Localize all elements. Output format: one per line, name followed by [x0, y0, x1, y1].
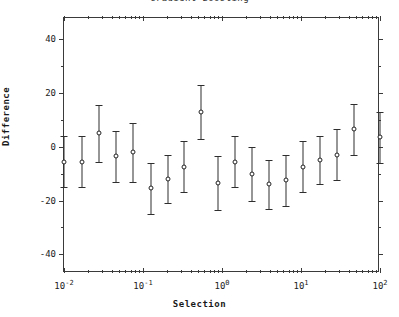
x-axis-minor-tick-top: [289, 16, 290, 19]
x-axis-minor-tick-top: [102, 16, 103, 19]
x-axis-minor-tick-top: [362, 16, 363, 19]
data-point-marker: [182, 164, 187, 169]
x-axis-minor-tick: [88, 270, 89, 273]
data-point-marker: [250, 171, 255, 176]
y-axis-minor-tick: [61, 227, 64, 228]
data-point-marker: [267, 182, 272, 187]
error-bar-cap-lower: [198, 139, 205, 140]
x-axis-tick-label: 102: [372, 279, 387, 291]
y-axis-tick: [59, 93, 64, 94]
y-axis-tick: [59, 39, 64, 40]
x-axis-tick-top: [143, 16, 144, 21]
error-bar-cap-upper: [317, 136, 324, 137]
x-axis-minor-tick-top: [297, 16, 298, 19]
y-axis-tick-label: -20: [40, 196, 56, 206]
x-axis-minor-tick-top: [277, 16, 278, 19]
y-axis-tick: [59, 254, 64, 255]
error-bar-cap-upper: [283, 155, 290, 156]
x-axis-tick-top: [64, 16, 65, 21]
error-bar-cap-upper: [198, 85, 205, 86]
x-axis-minor-tick-top: [372, 16, 373, 19]
plot-area: 40200-20-4010-210-1100101102: [63, 17, 379, 272]
data-point-marker: [233, 159, 238, 164]
y-axis-tick-right: [378, 254, 383, 255]
error-bar-cap-upper: [130, 123, 137, 124]
y-axis-tick-label: -40: [40, 249, 56, 259]
error-bar-cap-lower: [283, 206, 290, 207]
x-axis-minor-tick-top: [270, 16, 271, 19]
y-axis-minor-tick-right: [378, 227, 381, 228]
x-axis-minor-tick: [214, 270, 215, 273]
x-axis-tick: [64, 268, 65, 273]
error-bar-cap-lower: [249, 201, 256, 202]
data-point-marker: [97, 131, 102, 136]
y-axis-tick-label: 0: [51, 142, 56, 152]
error-bar-cap-lower: [317, 184, 324, 185]
y-axis-tick: [59, 201, 64, 202]
x-axis-minor-tick: [167, 270, 168, 273]
y-axis-minor-tick-right: [378, 174, 381, 175]
x-axis-tick: [222, 268, 223, 273]
error-bar-cap-lower: [61, 187, 68, 188]
x-axis-minor-tick-top: [214, 16, 215, 19]
x-axis-minor-tick: [325, 270, 326, 273]
x-axis-minor-tick-top: [125, 16, 126, 19]
x-axis-minor-tick: [260, 270, 261, 273]
error-bar-cap-lower: [333, 180, 340, 181]
x-axis-minor-tick-top: [376, 16, 377, 19]
x-axis-minor-tick: [181, 270, 182, 273]
x-axis-minor-tick: [297, 270, 298, 273]
error-bar-cap-upper: [377, 112, 384, 113]
x-axis-title: Selection: [0, 299, 399, 309]
error-bar-cap-upper: [299, 141, 306, 142]
error-bar-cap-upper: [215, 156, 222, 157]
x-axis-minor-tick: [372, 270, 373, 273]
x-axis-tick-top: [301, 16, 302, 21]
x-axis-minor-tick: [376, 270, 377, 273]
error-bar-cap-upper: [96, 105, 103, 106]
x-axis-minor-tick-top: [368, 16, 369, 19]
x-axis-tick-top: [222, 16, 223, 21]
error-bar-cap-upper: [147, 163, 154, 164]
data-point-marker: [216, 181, 221, 186]
x-axis-minor-tick-top: [260, 16, 261, 19]
x-axis-minor-tick-top: [210, 16, 211, 19]
x-axis-minor-tick: [191, 270, 192, 273]
error-bar-cap-upper: [113, 131, 120, 132]
error-bar-cap-upper: [164, 155, 171, 156]
x-axis-tick: [301, 268, 302, 273]
x-axis-minor-tick: [102, 270, 103, 273]
error-bar-cap-lower: [147, 214, 154, 215]
error-bar-cap-lower: [130, 182, 137, 183]
error-bar-cap-lower: [96, 162, 103, 163]
x-axis-minor-tick: [139, 270, 140, 273]
x-axis-minor-tick: [246, 270, 247, 273]
y-axis-tick-right: [378, 93, 383, 94]
data-point-marker: [148, 186, 153, 191]
data-point-marker: [351, 127, 356, 132]
x-axis-minor-tick: [368, 270, 369, 273]
x-axis-minor-tick-top: [246, 16, 247, 19]
error-bar-cap-lower: [266, 209, 273, 210]
data-point-marker: [165, 177, 170, 182]
x-axis-minor-tick: [293, 270, 294, 273]
error-bar-cap-upper: [266, 160, 273, 161]
x-axis-tick: [380, 268, 381, 273]
x-axis-minor-tick-top: [181, 16, 182, 19]
x-axis-minor-tick: [198, 270, 199, 273]
x-axis-minor-tick-top: [204, 16, 205, 19]
error-bar-cap-lower: [164, 203, 171, 204]
x-axis-minor-tick: [349, 270, 350, 273]
error-bar-cap-lower: [377, 163, 384, 164]
y-axis-minor-tick-right: [378, 66, 381, 67]
x-axis-minor-tick: [362, 270, 363, 273]
x-axis-tick-label: 10-1: [133, 279, 152, 291]
data-point-marker: [300, 164, 305, 169]
error-bar-cap-upper: [181, 141, 188, 142]
y-axis-tick-label: 20: [45, 88, 56, 98]
error-bar-cap-upper: [333, 129, 340, 130]
error-bar-cap-upper: [249, 147, 256, 148]
x-axis-minor-tick-top: [349, 16, 350, 19]
x-axis-minor-tick-top: [293, 16, 294, 19]
x-axis-minor-tick-top: [139, 16, 140, 19]
